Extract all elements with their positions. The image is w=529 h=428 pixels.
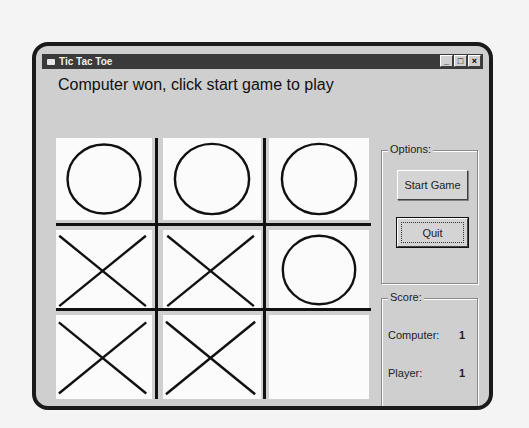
close-button[interactable]: ×: [468, 55, 481, 67]
o-mark-icon: [269, 138, 369, 220]
maximize-button[interactable]: □: [454, 55, 467, 67]
board-cell[interactable]: [56, 230, 152, 310]
board-cell[interactable]: [269, 230, 369, 310]
score-label: Tie:: [388, 407, 406, 410]
o-mark-icon: [56, 138, 152, 220]
title-bar[interactable]: Tic Tac Toe _ □ ×: [42, 54, 483, 69]
board-cell[interactable]: [163, 138, 261, 220]
score-row-tie: Tie:0: [388, 407, 471, 410]
minimize-button[interactable]: _: [440, 55, 453, 67]
grid-line-vertical: [263, 138, 266, 399]
options-legend: Options:: [388, 143, 433, 155]
board-cell[interactable]: [163, 315, 261, 399]
quit-button[interactable]: Quit: [397, 218, 468, 247]
score-row-player: Player:1: [388, 367, 471, 379]
x-mark-icon: [56, 230, 152, 310]
status-message: Computer won, click start game to play: [58, 76, 334, 94]
grid-line-horizontal: [56, 223, 371, 226]
score-group: Score: Computer:1 Player:1 Tie:0: [381, 298, 478, 410]
game-board: [56, 138, 371, 399]
score-value: 0: [459, 407, 465, 410]
score-label: Computer:: [388, 329, 439, 341]
o-mark-icon: [269, 230, 369, 310]
board-cell[interactable]: [269, 138, 369, 220]
score-value: 1: [459, 329, 465, 341]
grid-line-horizontal: [56, 308, 371, 311]
score-legend: Score:: [388, 291, 424, 303]
x-mark-icon: [163, 230, 261, 310]
window-title: Tic Tac Toe: [59, 56, 112, 67]
app-icon: [47, 59, 55, 65]
start-game-button[interactable]: Start Game: [397, 170, 468, 200]
score-row-computer: Computer:1: [388, 329, 471, 341]
score-value: 1: [459, 367, 465, 379]
quit-label: Quit: [422, 227, 442, 239]
options-group: Options: Start Game Quit: [381, 150, 478, 284]
grid-line-vertical: [155, 138, 158, 399]
o-mark-icon: [163, 138, 261, 220]
board-cell[interactable]: [56, 315, 152, 399]
board-cell[interactable]: [163, 230, 261, 310]
window-controls: _ □ ×: [440, 55, 481, 67]
score-label: Player:: [388, 367, 422, 379]
board-cell[interactable]: [56, 138, 152, 220]
x-mark-icon: [163, 315, 261, 399]
app-window: Tic Tac Toe _ □ × Computer won, click st…: [32, 42, 493, 410]
x-mark-icon: [56, 315, 152, 399]
board-cell[interactable]: [269, 315, 369, 399]
